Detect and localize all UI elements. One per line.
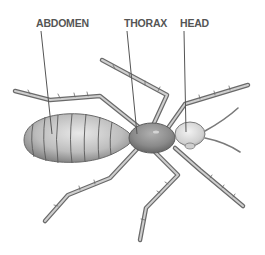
head-leader-line (184, 31, 186, 132)
spider-illustration (0, 0, 265, 255)
abdomen (24, 114, 134, 163)
leg-upper-right (168, 85, 248, 128)
leg-lower-middle (140, 152, 178, 240)
thorax-label: THORAX (124, 18, 167, 29)
head (175, 122, 205, 149)
head-label: HEAD (180, 18, 209, 29)
spider-anatomy-diagram: ABDOMEN THORAX HEAD (0, 0, 265, 255)
abdomen-label: ABDOMEN (36, 18, 89, 29)
antennae (205, 108, 240, 152)
